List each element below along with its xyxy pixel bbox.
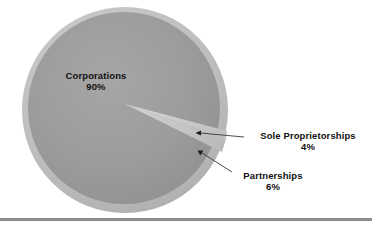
slice-label-partnerships-name: Partnerships <box>218 170 328 181</box>
slice-label-partnerships: Partnerships 6% <box>218 170 328 192</box>
slice-label-corporations-name: Corporations <box>36 70 156 81</box>
slice-label-sole-proprietorships-percent: 4% <box>246 141 370 152</box>
slice-label-corporations: Corporations 90% <box>36 70 156 92</box>
slice-label-partnerships-percent: 6% <box>218 181 328 192</box>
pie-slice-corporations <box>28 12 220 204</box>
slice-label-corporations-percent: 90% <box>36 81 156 92</box>
slice-label-sole-proprietorships-name: Sole Proprietorships <box>246 130 370 141</box>
pie-chart-figure: Corporations 90% Sole Proprietorships 4%… <box>0 0 372 228</box>
pie-chart-canvas <box>0 0 372 228</box>
bottom-margin-band <box>0 221 372 228</box>
slice-label-sole-proprietorships: Sole Proprietorships 4% <box>246 130 370 152</box>
